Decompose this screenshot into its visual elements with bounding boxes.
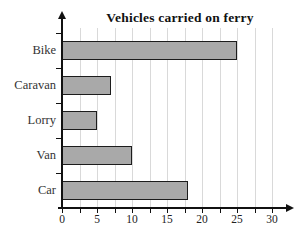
x-axis-tick xyxy=(80,209,81,213)
bar-van xyxy=(62,146,132,165)
x-axis-tick xyxy=(115,209,116,213)
x-axis-line xyxy=(58,207,287,209)
y-axis-arrow-icon xyxy=(58,11,66,19)
x-tick-label-5: 5 xyxy=(85,213,109,225)
gridline xyxy=(237,28,238,208)
x-tick-label-0: 0 xyxy=(50,213,74,225)
ferry-bar-chart: Vehicles carried on ferry BikeCaravanLor… xyxy=(0,0,297,239)
category-label-bike: Bike xyxy=(0,33,56,68)
x-axis-tick xyxy=(255,209,256,213)
x-axis-arrow-icon xyxy=(286,204,294,212)
x-axis-tick xyxy=(150,209,151,213)
bar-bike xyxy=(62,41,237,60)
x-tick-label-15: 15 xyxy=(155,213,179,225)
category-label-van: Van xyxy=(0,138,56,173)
x-tick-label-20: 20 xyxy=(190,213,214,225)
bar-car xyxy=(62,181,188,200)
gridline xyxy=(255,28,256,208)
category-label-car: Car xyxy=(0,173,56,208)
chart-title: Vehicles carried on ferry xyxy=(70,10,290,26)
x-tick-label-25: 25 xyxy=(225,213,249,225)
x-axis-tick xyxy=(220,209,221,213)
x-tick-label-10: 10 xyxy=(120,213,144,225)
x-axis-tick xyxy=(185,209,186,213)
gridline xyxy=(272,28,273,208)
x-tick-label-30: 30 xyxy=(260,213,284,225)
bar-caravan xyxy=(62,76,111,95)
category-label-caravan: Caravan xyxy=(0,68,56,103)
y-axis-line xyxy=(61,18,63,208)
bar-lorry xyxy=(62,111,97,130)
category-label-lorry: Lorry xyxy=(0,103,56,138)
